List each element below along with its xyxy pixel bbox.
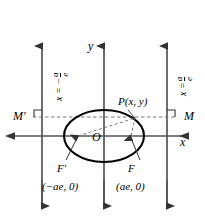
left-directrix-fraction: ae: [51, 73, 69, 78]
right-directrix-var: x: [177, 92, 188, 96]
left-directrix-denominator: e: [60, 73, 70, 78]
right-angle-mark-m: [167, 110, 175, 117]
focal-radius-right: [131, 118, 135, 136]
right-directrix-eq: =: [177, 82, 188, 89]
left-directrix-var: x: [53, 97, 64, 101]
focus-left-label: F′: [57, 163, 66, 174]
focal-radius-left: [78, 118, 135, 136]
leader-focus-left: [66, 138, 77, 160]
right-angle-mark-mprime: [34, 110, 42, 117]
figure-canvas: [0, 0, 205, 219]
right-directrix-numerator: a: [175, 77, 184, 82]
ellipse-directrix-figure: y x O P(x, y) M M′ F F′ (ae, 0) (−ae, 0)…: [0, 0, 205, 219]
point-p-label: P(x, y): [118, 96, 147, 107]
right-directrix-equation: x =ae: [175, 76, 193, 96]
focus-right-label: F: [128, 163, 135, 174]
x-axis-label: x: [180, 136, 185, 148]
focus-left-coords: (−ae, 0): [42, 181, 78, 192]
right-directrix-fraction: ae: [175, 77, 193, 82]
left-directrix-equation: x = −ae: [51, 72, 69, 101]
y-axis-label: y: [88, 40, 93, 52]
origin-label: O: [92, 131, 101, 143]
point-m-label: M: [184, 110, 194, 122]
left-directrix-sign: −: [53, 78, 64, 85]
right-directrix-denominator: e: [184, 77, 194, 82]
left-directrix-eq: =: [53, 87, 64, 94]
point-m-prime-label: M′: [13, 110, 26, 122]
focus-right-coords: (ae, 0): [116, 181, 145, 192]
left-directrix-numerator: a: [51, 73, 60, 78]
